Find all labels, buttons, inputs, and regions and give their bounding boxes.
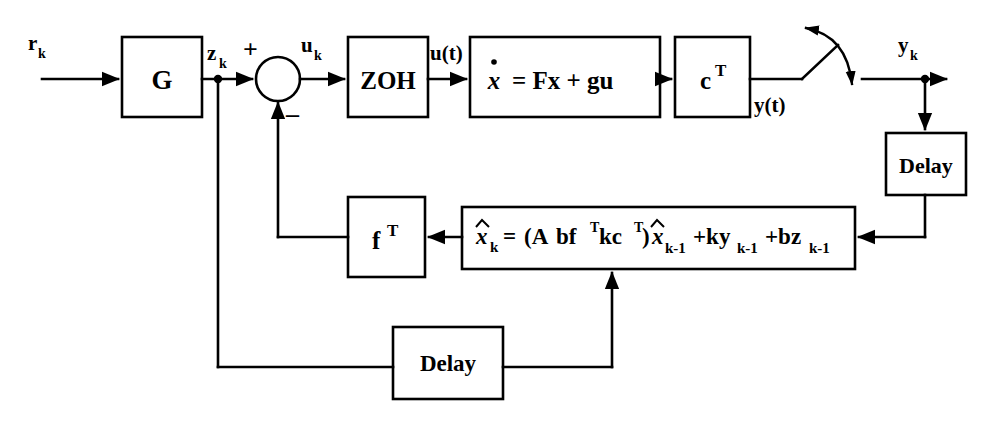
- cT-superscript: T: [715, 61, 727, 80]
- block-label-c-transpose: c T: [700, 61, 727, 94]
- signal-label-y-t: y(t): [754, 93, 785, 117]
- block-diagram-figure: G ZOH x = Fx + gu c T f T Delay Delay: [0, 0, 1001, 424]
- block-label-f-transpose: f T: [372, 221, 399, 254]
- signal-z-subscript: k: [219, 56, 227, 71]
- observer-equals: =: [503, 224, 516, 249]
- fT-superscript: T: [387, 221, 399, 240]
- sampler-rotation-arc: [806, 28, 852, 84]
- signal-y-k-base: y: [898, 33, 909, 57]
- signal-label-y-k: y k: [898, 33, 918, 63]
- signal-label-u-k: u k: [301, 33, 322, 63]
- observer-term-bz-subscript: k-1: [809, 240, 830, 256]
- plant-xdot-overdot: [491, 59, 497, 65]
- signal-y-k-subscript: k: [910, 48, 918, 63]
- signal-r-subscript: k: [38, 46, 46, 61]
- block-label-delay-input: Delay: [420, 351, 477, 376]
- observer-term-kc: kc: [599, 224, 622, 249]
- signal-z-base: z: [207, 41, 216, 65]
- sampler-switch-arm: [802, 45, 838, 79]
- observer-term-ky: +ky: [693, 224, 731, 249]
- observer-matrix-close: ): [642, 224, 650, 249]
- observer-term-bz: +bz: [765, 224, 801, 249]
- block-label-delay-output: Delay: [899, 153, 953, 178]
- junction-dot-yk: [921, 75, 929, 83]
- observer-equation: x k = (A bf T kc T ) x k-1 +ky k-1 +bz k…: [475, 220, 830, 256]
- summing-plus-sign: +: [243, 35, 258, 64]
- observer-state-base: x: [651, 224, 664, 249]
- observer-term-bf: bf: [556, 224, 577, 249]
- observer-lhs-subscript: k: [490, 239, 499, 255]
- signal-label-z: z k: [207, 41, 227, 71]
- observer-state-subscript: k-1: [665, 240, 686, 256]
- junction-dot-z: [214, 75, 222, 83]
- observer-term-ky-subscript: k-1: [737, 240, 758, 256]
- summing-minus-sign: –: [285, 99, 300, 128]
- cT-base: c: [700, 67, 711, 94]
- fT-base: f: [372, 227, 381, 254]
- signal-r-base: r: [28, 31, 37, 55]
- plant-xdot-symbol: x: [487, 67, 501, 94]
- summing-junction: [256, 57, 300, 101]
- signal-u-k-base: u: [301, 33, 313, 57]
- signal-u-k-subscript: k: [314, 48, 322, 63]
- block-label-zoh: ZOH: [360, 67, 416, 94]
- signal-label-r: r k: [28, 31, 46, 61]
- observer-lhs-base: x: [475, 224, 488, 249]
- plant-rhs: = Fx + gu: [512, 67, 614, 94]
- block-label-G: G: [151, 65, 172, 95]
- observer-matrix-open: (A: [524, 224, 549, 249]
- block-label-plant: x = Fx + gu: [487, 59, 614, 94]
- block-c-transpose: [675, 37, 750, 117]
- signal-label-u-t: u(t): [430, 41, 463, 65]
- diagram-canvas: G ZOH x = Fx + gu c T f T Delay Delay: [0, 0, 1001, 424]
